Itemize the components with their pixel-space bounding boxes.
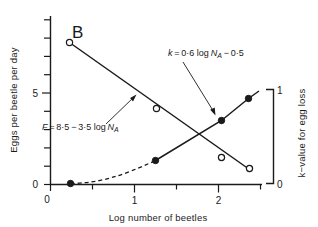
data-point-filled — [245, 95, 251, 101]
data-point-filled — [67, 180, 73, 186]
y2-axis-bracket — [266, 90, 274, 184]
data-point-open — [246, 165, 252, 171]
equation-k-middle: = 0·6 log — [173, 48, 211, 58]
equation-f-rest: = 8·5 − 3·5 log — [48, 122, 108, 132]
x-tick-label-0: 0 — [44, 194, 50, 205]
x-tick-label-2: 2 — [216, 195, 222, 206]
equation-f-label: F = 8·5 − 3·5 log NA — [42, 122, 119, 133]
y2-axis-title: k−value for egg loss — [296, 89, 307, 178]
x-axis-ticks — [51, 185, 261, 193]
equation-k-arrowhead — [210, 108, 215, 116]
data-point-filled — [218, 117, 224, 123]
equation-f-leader-line — [106, 97, 135, 125]
y-tick-label-0: 0 — [32, 179, 38, 190]
y-axis-title: Eggs per beetle per day — [8, 47, 19, 153]
data-point-open — [218, 154, 224, 160]
series-k-dashed-segment — [71, 161, 156, 184]
data-point-open — [66, 39, 72, 45]
series-f-fit-line — [70, 43, 250, 170]
panel-label: B — [72, 23, 83, 42]
equation-f-subscript: A — [113, 126, 119, 133]
y2-tick-label-0: 0 — [277, 179, 283, 190]
equation-k-leader-line — [183, 62, 215, 113]
x-axis-title: Log number of beetles — [109, 212, 208, 223]
equation-k-end: − 0·5 — [222, 48, 244, 58]
y-axis-ticks — [42, 20, 51, 185]
equation-k-label: k = 0·6 log NA − 0·5 — [168, 48, 244, 59]
data-point-filled — [152, 157, 158, 163]
data-point-open — [153, 105, 159, 111]
y2-tick-label-1: 1 — [277, 85, 283, 96]
equation-f-arrowhead — [130, 95, 136, 102]
y-tick-label-5: 5 — [32, 88, 38, 99]
figure-panel-b: 0 5 Eggs per beetle per day 0 1 2 Log nu… — [0, 0, 318, 227]
x-tick-label-1: 1 — [132, 195, 138, 206]
